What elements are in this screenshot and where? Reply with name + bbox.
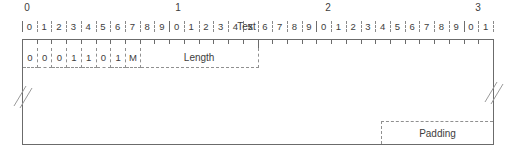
padding-field-label: Padding <box>419 128 456 139</box>
text-field: Text <box>0 0 469 52</box>
text-field-label: Text <box>12 0 481 52</box>
padding-field: Padding <box>381 121 493 144</box>
frame-right-border <box>493 39 494 145</box>
break-mark-left-icon <box>12 72 34 116</box>
ruler-tick <box>493 21 494 32</box>
frame-bottom-border <box>22 144 493 145</box>
packet-format-diagram: 0 1 2 3 01234567890123456789012345678901… <box>0 0 521 154</box>
break-mark-right-icon <box>483 72 505 116</box>
